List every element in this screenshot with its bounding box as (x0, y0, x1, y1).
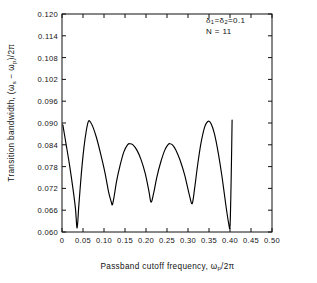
tick-marks (62, 14, 272, 232)
chart-figure: Transition bandwidth, (ωs − ωp)/2π Passb… (0, 0, 317, 283)
data-series-line (63, 120, 232, 229)
axis-frame (62, 14, 272, 232)
plot-area (0, 0, 317, 283)
